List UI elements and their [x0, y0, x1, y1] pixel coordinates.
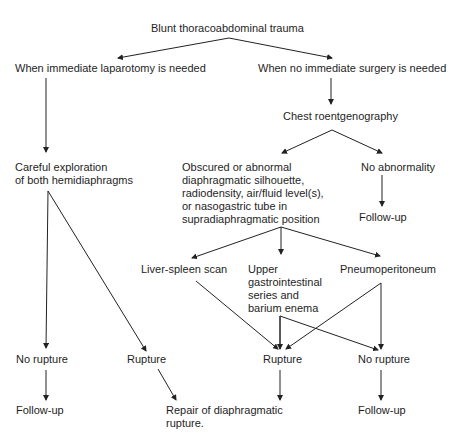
- arrow-upper-gi-to-no-rupture: [280, 316, 378, 350]
- node-careful-exploration: Careful exploration of both hemidiaphrag…: [15, 161, 133, 187]
- arrow-abnormal-to-liver-spleen: [192, 227, 281, 258]
- node-laparotomy: When immediate laparotomy is needed: [15, 62, 206, 75]
- arrow-chest-to-no-abnormality: [332, 130, 382, 153]
- arrow-explore-to-no-rupture: [46, 191, 48, 348]
- node-chest-roentgenography: Chest roentgenography: [283, 110, 398, 123]
- arrow-explore-to-rupture: [48, 191, 146, 351]
- node-followup-right: Follow-up: [358, 404, 406, 417]
- node-no-abnormality: No abnormality: [361, 161, 435, 174]
- node-upper-gi-series: Upper gastrointestinal series and barium…: [248, 263, 322, 315]
- node-rupture-left: Rupture: [127, 353, 166, 366]
- node-followup-left: Follow-up: [16, 404, 64, 417]
- node-root: Blunt thoracoabdominal trauma: [151, 22, 304, 35]
- arrow-root-to-laparotomy: [118, 38, 229, 58]
- node-no-surgery: When no immediate surgery is needed: [258, 62, 446, 75]
- arrow-root-to-no-surgery: [229, 38, 332, 58]
- node-no-rupture-right: No rupture: [358, 353, 410, 366]
- node-rupture-mid: Rupture: [263, 353, 302, 366]
- node-pneumoperitoneum: Pneumoperitoneum: [340, 263, 436, 276]
- arrow-chest-to-abnormal: [282, 130, 332, 153]
- node-liver-spleen-scan: Liver-spleen scan: [141, 263, 227, 276]
- node-followup-right-top: Follow-up: [359, 211, 407, 224]
- node-repair: Repair of diaphragmatic rupture.: [166, 404, 283, 430]
- node-abnormal-findings: Obscured or abnormal diaphragmatic silho…: [182, 161, 324, 226]
- node-no-rupture-left: No rupture: [16, 353, 68, 366]
- arrow-rupture-left-to-repair: [158, 369, 176, 400]
- arrow-abnormal-to-pneumo: [281, 227, 380, 256]
